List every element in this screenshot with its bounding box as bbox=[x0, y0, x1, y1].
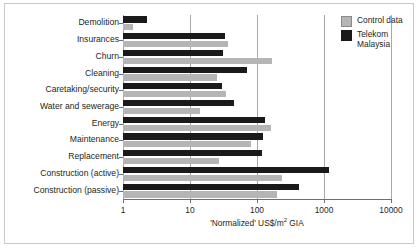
legend-item-telekom-malaysia: Telekom Malaysia bbox=[341, 30, 417, 49]
bar-telekom-malaysia bbox=[123, 184, 299, 190]
chart-legend: Control data Telekom Malaysia bbox=[341, 16, 417, 52]
legend-item-control-data: Control data bbox=[341, 16, 417, 27]
x-tick-label: 10000 bbox=[379, 205, 402, 215]
category-label: Insurances bbox=[7, 35, 119, 44]
category-label: Water and sewerage bbox=[7, 102, 119, 111]
category-label: Replacement bbox=[7, 152, 119, 161]
bar-telekom-malaysia bbox=[123, 83, 222, 89]
bar-control-data bbox=[123, 175, 282, 181]
bar-control-data bbox=[123, 108, 200, 114]
legend-swatch-telekom-malaysia bbox=[341, 30, 352, 41]
category-label: Cleaning bbox=[7, 69, 119, 78]
legend-swatch-control-data bbox=[341, 16, 352, 27]
bar-telekom-malaysia bbox=[123, 167, 329, 173]
x-tick-label: 100 bbox=[250, 205, 264, 215]
bar-telekom-malaysia bbox=[123, 50, 223, 56]
category-label: Churn bbox=[7, 52, 119, 61]
x-tick-mark bbox=[324, 199, 325, 203]
category-label: Maintenance bbox=[7, 135, 119, 144]
bar-control-data bbox=[123, 141, 251, 147]
category-label: Caretaking/security bbox=[7, 85, 119, 94]
bar-telekom-malaysia bbox=[123, 150, 262, 156]
bar-telekom-malaysia bbox=[123, 67, 247, 73]
bar-telekom-malaysia bbox=[123, 16, 147, 22]
x-tick-mark bbox=[257, 199, 258, 203]
bar-control-data bbox=[123, 91, 226, 97]
x-tick-mark bbox=[190, 199, 191, 203]
category-label: Energy bbox=[7, 119, 119, 128]
category-label: Construction (active) bbox=[7, 169, 119, 178]
bar-control-data bbox=[123, 24, 133, 30]
x-tick-label: 10 bbox=[185, 205, 194, 215]
bar-control-data bbox=[123, 125, 271, 131]
x-axis-title-suffix: GIA bbox=[287, 218, 304, 228]
x-tick-mark bbox=[391, 199, 392, 203]
bar-control-data bbox=[123, 191, 277, 197]
bar-telekom-malaysia bbox=[123, 100, 234, 106]
bar-control-data bbox=[123, 41, 228, 47]
x-axis-title: 'Normalized' US$/m2 GIA bbox=[123, 217, 391, 228]
bar-telekom-malaysia bbox=[123, 33, 225, 39]
x-tick-label: 1 bbox=[121, 205, 126, 215]
bar-control-data bbox=[123, 74, 217, 80]
bar-telekom-malaysia bbox=[123, 133, 263, 139]
category-label: Construction (passive) bbox=[7, 186, 119, 195]
bar-telekom-malaysia bbox=[123, 117, 265, 123]
legend-label-telekom-malaysia: Telekom Malaysia bbox=[357, 30, 417, 49]
bar-control-data bbox=[123, 158, 219, 164]
category-label: Demolition bbox=[7, 18, 119, 27]
x-tick-mark bbox=[123, 199, 124, 203]
x-tick-label: 1000 bbox=[315, 205, 334, 215]
legend-label-control-data: Control data bbox=[357, 16, 403, 26]
chart-frame: 110100100010000 Control data Telekom Mal… bbox=[4, 3, 414, 244]
bar-control-data bbox=[123, 58, 272, 64]
x-axis-title-prefix: 'Normalized' US$/m bbox=[210, 218, 283, 228]
